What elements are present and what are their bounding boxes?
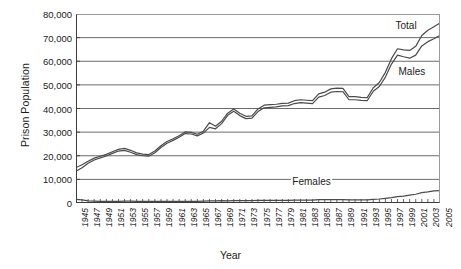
x-tick-label: 1955 <box>140 208 150 227</box>
x-tick-label: 1947 <box>92 208 102 227</box>
x-tick-label: 1985 <box>322 208 332 227</box>
x-tick-label: 1997 <box>395 208 405 227</box>
x-tick-label: 1973 <box>249 208 259 227</box>
x-tick-label: 1953 <box>128 208 138 227</box>
x-tick-label: 1965 <box>201 208 211 227</box>
x-tick-label: 1969 <box>225 208 235 227</box>
x-tick-label: 1983 <box>310 208 320 227</box>
x-tick-label: 1999 <box>407 208 417 227</box>
x-tick-label: 1961 <box>177 208 187 227</box>
series-label-males: Males <box>398 66 427 77</box>
x-tick-label: 2005 <box>444 208 454 227</box>
x-tick-label: 2001 <box>419 208 429 227</box>
x-tick-label: 1979 <box>286 208 296 227</box>
x-tick-label: 1963 <box>189 208 199 227</box>
y-tick-label: 40,000 <box>43 103 72 114</box>
x-tick-label: 1971 <box>237 208 247 227</box>
x-tick-label: 1995 <box>383 208 393 227</box>
x-tick-label: 1991 <box>359 208 369 227</box>
series-label-females: Females <box>291 176 331 187</box>
x-tick-label: 1957 <box>152 208 162 227</box>
x-tick-label: 1975 <box>262 208 272 227</box>
y-axis-tick-labels: 010,00020,00030,00040,00050,00060,00070,… <box>30 0 72 210</box>
x-tick-label: 1981 <box>298 208 308 227</box>
y-tick-label: 30,000 <box>43 127 72 138</box>
y-tick-label: 20,000 <box>43 150 72 161</box>
x-tick-label: 1949 <box>104 208 114 227</box>
x-tick-label: 1967 <box>213 208 223 227</box>
x-tick-label: 1977 <box>274 208 284 227</box>
series-label-total: Total <box>395 20 418 31</box>
x-tick-label: 1951 <box>116 208 126 227</box>
x-axis-tick-labels: 1945194719491951195319551957195919611963… <box>0 205 461 253</box>
plot-frame <box>76 14 440 203</box>
y-tick-label: 60,000 <box>43 56 72 67</box>
x-tick-label: 2003 <box>431 208 441 227</box>
y-tick-label: 50,000 <box>43 79 72 90</box>
y-tick-label: 70,000 <box>43 32 72 43</box>
x-tick-label: 1993 <box>371 208 381 227</box>
plot-area <box>76 14 440 203</box>
y-tick-label: 10,000 <box>43 174 72 185</box>
x-tick-label: 1987 <box>334 208 344 227</box>
x-axis-title: Year <box>0 249 461 261</box>
prison-population-chart: Prison Population 010,00020,00030,00040,… <box>0 0 461 269</box>
x-tick-label: 1959 <box>164 208 174 227</box>
y-tick-label: 80,000 <box>43 9 72 20</box>
x-tick-label: 1945 <box>80 208 90 227</box>
x-tick-label: 1989 <box>346 208 356 227</box>
